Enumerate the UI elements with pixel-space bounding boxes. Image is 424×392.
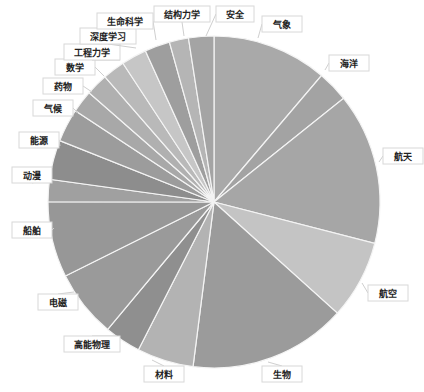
slice-label: 海洋	[340, 58, 358, 69]
slice-label: 深度学习	[90, 31, 126, 42]
slice-label: 工程力学	[74, 47, 110, 58]
slice-label: 高能物理	[74, 339, 110, 350]
slice-label: 能源	[30, 135, 48, 146]
label-leader-line	[379, 156, 383, 162]
slice-label: 结构力学	[164, 9, 200, 20]
slice-label: 数学	[66, 62, 84, 73]
slice-label: 材料	[154, 369, 173, 380]
slice-label: 安全	[226, 9, 245, 20]
slice-label: 药物	[54, 81, 72, 92]
label-leader-line	[268, 362, 282, 366]
slice-label: 动漫	[23, 170, 42, 181]
label-leader-line	[362, 283, 368, 293]
slice-label: 船舶	[23, 225, 41, 236]
slice-label: 航天	[394, 151, 413, 162]
label-leader-line	[83, 86, 92, 92]
slice-label: 生命科学	[107, 16, 143, 27]
label-leader-line	[258, 24, 262, 38]
pie-slices	[48, 36, 380, 368]
slice-label: 航空	[379, 288, 397, 299]
slice-label: 电磁	[49, 297, 67, 308]
slice-label: 生物	[273, 369, 291, 380]
label-leader-line	[95, 67, 104, 76]
slice-label: 气象	[272, 19, 291, 30]
label-leader-line	[325, 63, 329, 70]
label-leader-line	[182, 22, 184, 36]
pie-chart: 气象海洋航天航空生物材料高能物理电磁船舶动漫能源气候药物数学工程力学深度学习生命…	[0, 0, 424, 392]
slice-label: 气候	[43, 103, 63, 114]
label-leader-line	[152, 360, 164, 366]
